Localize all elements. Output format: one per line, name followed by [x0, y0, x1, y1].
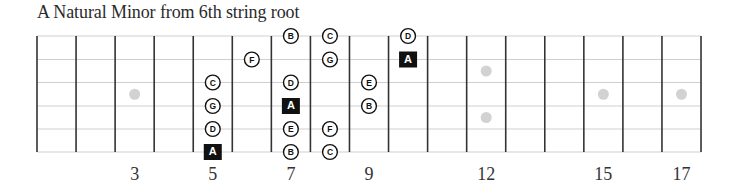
fret-number-label: 9	[365, 164, 374, 184]
fret-number-label: 5	[208, 164, 217, 184]
fret-inlays	[129, 66, 687, 124]
fret-number-label: 7	[286, 164, 295, 184]
scale-note-marker: D	[283, 75, 298, 90]
inlay-dot-icon	[598, 89, 609, 100]
fretboard-diagram: CGDAFBDAEBCGFCEBDA 3579121517	[0, 0, 732, 195]
fret-number-label: 12	[477, 164, 495, 184]
scale-note-marker: B	[283, 29, 298, 44]
scale-note-marker: E	[283, 122, 298, 137]
note-label: D	[288, 78, 294, 88]
inlay-dot-icon	[129, 89, 140, 100]
inlay-dot-icon	[481, 112, 492, 123]
note-label: B	[288, 31, 294, 41]
scale-note-marker: E	[362, 75, 377, 90]
note-label: F	[327, 124, 332, 134]
scale-note-marker: D	[401, 29, 416, 44]
scale-note-marker: B	[362, 99, 377, 114]
scale-note-marker: C	[205, 75, 220, 90]
root-note-marker: A	[204, 144, 222, 160]
note-label: C	[210, 78, 216, 88]
root-note-marker: A	[282, 98, 300, 114]
scale-note-marker: C	[323, 29, 338, 44]
note-label: A	[287, 99, 295, 111]
scale-note-marker: C	[323, 145, 338, 160]
root-note-marker: A	[399, 52, 417, 68]
note-label: G	[327, 55, 334, 65]
scale-note-marker: G	[323, 52, 338, 67]
note-label: C	[327, 147, 333, 157]
fret-number-label: 15	[594, 164, 612, 184]
note-label: C	[327, 31, 333, 41]
note-label: E	[366, 78, 372, 88]
fret-number-label: 3	[130, 164, 139, 184]
inlay-dot-icon	[676, 89, 687, 100]
note-label: D	[210, 124, 216, 134]
scale-note-marker: D	[205, 122, 220, 137]
note-label: F	[249, 55, 254, 65]
note-label: G	[209, 101, 216, 111]
note-label: B	[288, 147, 294, 157]
fret-number-label: 17	[672, 164, 690, 184]
fret-numbers: 3579121517	[130, 164, 690, 184]
note-label: A	[404, 53, 412, 65]
scale-note-marker: F	[244, 52, 259, 67]
inlay-dot-icon	[481, 66, 492, 77]
note-label: B	[366, 101, 372, 111]
note-label: E	[288, 124, 294, 134]
scale-note-marker: G	[205, 99, 220, 114]
note-label: D	[405, 31, 411, 41]
scale-note-marker: B	[283, 145, 298, 160]
note-label: A	[209, 145, 217, 157]
scale-note-marker: F	[323, 122, 338, 137]
